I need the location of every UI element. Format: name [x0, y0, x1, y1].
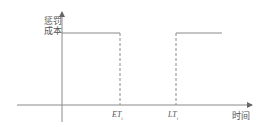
tick-et-main: ET — [112, 110, 121, 119]
tick-lt-main: LT — [168, 110, 177, 119]
y-label-line1: 惩罚 — [40, 16, 62, 26]
y-axis-label: 惩罚 成本 — [40, 16, 62, 36]
y-label-line2: 成本 — [40, 26, 62, 36]
x-axis-label: 时间 — [232, 111, 250, 121]
tick-lt-sub: i — [177, 116, 178, 121]
tick-et-sub: i — [121, 116, 122, 121]
tick-et: ETi — [112, 110, 123, 121]
tick-lt: LTi — [168, 110, 178, 121]
